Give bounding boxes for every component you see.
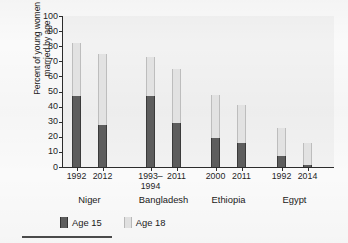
y-axis-line — [62, 16, 63, 168]
y-tick-mark-60 — [59, 76, 62, 77]
y-tick-mark-70 — [59, 61, 62, 62]
y-axis-tick-30: 30 — [36, 117, 58, 126]
bar-bangladesh-1993–1994 — [146, 16, 155, 167]
legend-label: Age 18 — [136, 218, 166, 228]
y-axis-tick-labels: 1009080706050403020100 — [34, 0, 58, 243]
legend-swatch-icon — [60, 217, 68, 228]
x-tick-mark — [216, 168, 217, 171]
y-tick-mark-20 — [59, 137, 62, 138]
x-tick-mark — [282, 168, 283, 171]
bar-segment-age15 — [237, 143, 246, 167]
bar-ethiopia-2011 — [237, 16, 246, 167]
y-axis-tick-60: 60 — [36, 72, 58, 81]
legend-item-age-18: Age 18 — [124, 217, 166, 228]
x-tick-mark — [177, 168, 178, 171]
bar-segment-age15 — [98, 125, 107, 167]
y-axis-tick-40: 40 — [36, 102, 58, 111]
y-tick-mark-30 — [59, 122, 62, 123]
y-axis-tick-20: 20 — [36, 132, 58, 141]
group-label-egypt: Egypt — [255, 195, 335, 205]
y-axis-tick-70: 70 — [36, 57, 58, 66]
y-tick-mark-80 — [59, 46, 62, 47]
y-axis-tick-80: 80 — [36, 42, 58, 51]
bar-chart: Percent of young women married by age 10… — [0, 0, 348, 243]
y-axis-tick-90: 90 — [36, 27, 58, 36]
y-tick-mark-10 — [59, 152, 62, 153]
x-tick-mark — [308, 168, 309, 171]
x-tick-mark — [77, 168, 78, 171]
x-axis-label-egypt-2014: 2014 — [288, 172, 328, 182]
x-axis-label-niger-2012: 2012 — [83, 172, 123, 182]
bar-niger-2012 — [98, 16, 107, 167]
legend-label: Age 15 — [72, 218, 102, 228]
y-tick-mark-0 — [59, 167, 62, 168]
x-axis-label-bangladesh-2011: 2011 — [157, 172, 197, 182]
bar-bangladesh-2011 — [172, 16, 181, 167]
x-tick-mark — [103, 168, 104, 171]
bar-segment-age18 — [303, 143, 312, 167]
bar-segment-age15 — [72, 96, 81, 167]
footer-rule — [22, 236, 112, 238]
y-tick-mark-100 — [59, 16, 62, 17]
y-axis-tick-50: 50 — [36, 87, 58, 96]
y-tick-mark-40 — [59, 107, 62, 108]
y-tick-mark-50 — [59, 92, 62, 93]
bar-niger-1992 — [72, 16, 81, 167]
bar-segment-age15 — [277, 156, 286, 167]
bar-egypt-1992 — [277, 16, 286, 167]
group-label-niger: Niger — [50, 195, 130, 205]
bar-segment-age15 — [146, 96, 155, 167]
y-tick-mark-90 — [59, 31, 62, 32]
y-axis-tick-100: 100 — [36, 12, 58, 21]
y-axis-tick-0: 0 — [36, 163, 58, 172]
y-axis-tick-10: 10 — [36, 147, 58, 156]
bar-segment-age15 — [211, 138, 220, 167]
bar-egypt-2014 — [303, 16, 312, 167]
bar-segment-age15 — [303, 165, 312, 167]
legend-swatch-icon — [124, 217, 132, 228]
legend-item-age-15: Age 15 — [60, 217, 102, 228]
x-tick-mark — [242, 168, 243, 171]
bar-segment-age15 — [172, 123, 181, 167]
x-tick-mark — [151, 168, 152, 171]
chart-legend: Age 15Age 18 — [60, 217, 165, 228]
bar-ethiopia-2000 — [211, 16, 220, 167]
x-axis-label-ethiopia-2011: 2011 — [222, 172, 262, 182]
